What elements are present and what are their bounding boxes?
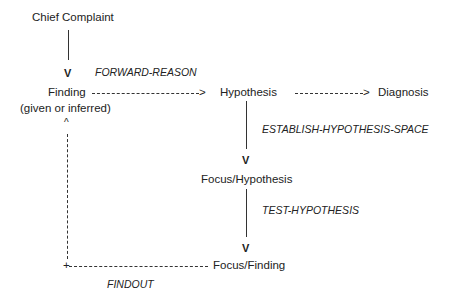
node-focus-finding: Focus/Finding [213,260,285,272]
label-forward-reason: FORWARD-REASON [95,67,197,78]
arrow-down-icon: V [64,68,71,79]
arrow-up-icon: ^ [64,118,69,128]
node-chief-complaint: Chief Complaint [32,12,114,24]
arrow-right-icon: > [363,87,370,99]
label-findout: FINDOUT [107,279,154,290]
node-focus-hypothesis: Focus/Hypothesis [201,174,292,186]
label-establish-hypothesis-space: ESTABLISH-HYPOTHESIS-SPACE [262,124,428,135]
arrow-down-icon: V [242,243,249,254]
node-diagnosis: Diagnosis [378,87,429,99]
edge-line-finding-to-hypothesis [92,93,199,94]
edge-line-hypothesis-to-focus [246,101,247,149]
label-test-hypothesis: TEST-HYPOTHESIS [262,205,359,216]
edge-line-chief-to-finding [68,30,69,60]
node-finding: Finding [48,87,86,99]
arrow-right-icon: > [199,87,206,99]
edge-line-focus-hypothesis-to-focus-finding [246,189,247,237]
corner-icon: + [63,260,70,272]
node-finding-subtitle: (given or inferred) [20,103,111,115]
node-hypothesis: Hypothesis [220,87,277,99]
edge-line-focus-finding-to-corner [69,266,208,267]
arrow-down-icon: V [242,155,249,166]
edge-line-hypothesis-to-diagnosis [295,93,363,94]
edge-line-corner-to-finding [67,134,68,259]
